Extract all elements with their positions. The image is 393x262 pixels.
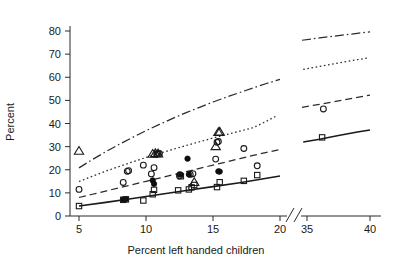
data-point-circle-filled [217, 169, 222, 174]
y-tick-label: 30 [49, 141, 61, 153]
figure-container: 01020304050607080 51015203540 Percent le… [0, 0, 393, 262]
chart-canvas: 01020304050607080 51015203540 Percent le… [0, 0, 393, 262]
y-tick-label: 50 [49, 94, 61, 106]
x-tick-label: 5 [76, 223, 82, 235]
y-tick-labels: 01020304050607080 [49, 25, 61, 222]
x-tick-label: 15 [207, 223, 219, 235]
data-point-circle-filled [178, 172, 183, 177]
x-tick-label: 40 [364, 223, 376, 235]
x-tick-label: 10 [140, 223, 152, 235]
data-point-circle-filled [151, 181, 156, 186]
data-point-circle-filled [186, 172, 191, 177]
y-tick-label: 60 [49, 71, 61, 83]
y-axis-title: Percent [4, 103, 16, 141]
y-tick-label: 0 [55, 210, 61, 222]
x-axis-title: Percent left handed children [128, 244, 265, 256]
x-tick-label: 35 [301, 223, 313, 235]
y-tick-label: 70 [49, 48, 61, 60]
y-tick-label: 20 [49, 164, 61, 176]
y-tick-label: 10 [49, 187, 61, 199]
data-point-circle-filled [185, 156, 190, 161]
y-tick-label: 40 [49, 118, 61, 130]
y-tick-label: 80 [49, 25, 61, 37]
chart-background [0, 0, 393, 262]
x-tick-label: 20 [274, 223, 286, 235]
